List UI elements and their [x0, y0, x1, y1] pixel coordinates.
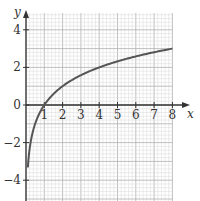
- x-tick-label: 4: [95, 108, 103, 122]
- chart: 12345678420−2−4 y x: [0, 0, 200, 201]
- x-tick-label: 7: [150, 108, 158, 122]
- y-tick-label: −4: [3, 173, 21, 187]
- x-tick-label: 3: [77, 108, 85, 122]
- y-tick-label: 4: [13, 23, 21, 37]
- x-tick-label: 8: [169, 108, 177, 122]
- x-tick-label: 5: [114, 108, 122, 122]
- x-axis-label: x: [187, 107, 194, 121]
- y-tick-label: −2: [3, 136, 21, 150]
- x-tick-label: 6: [132, 108, 140, 122]
- y-axis-label: y: [13, 5, 21, 19]
- y-tick-label: 0: [13, 98, 21, 112]
- x-tick-label: 2: [59, 108, 67, 122]
- y-tick-label: 2: [13, 60, 21, 74]
- y-axis-arrow-icon: [23, 10, 29, 18]
